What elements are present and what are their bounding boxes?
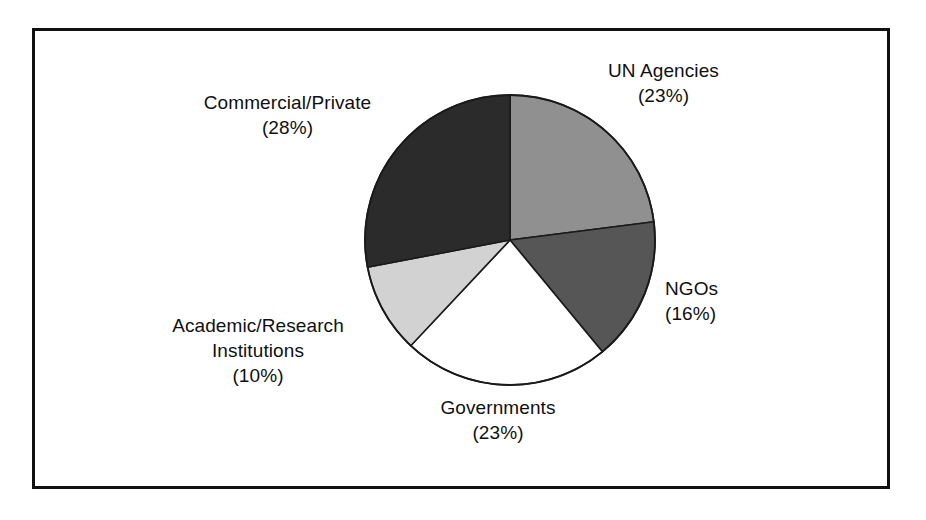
pie-label-academic-research: Academic/Research Institutions (10%) — [152, 313, 364, 388]
pie-label-governments-percent: (23%) — [418, 420, 578, 445]
pie-label-governments-name: Governments — [418, 395, 578, 420]
pie-slices — [365, 95, 655, 385]
pie-label-academic-research-line1: Academic/Research — [152, 313, 364, 338]
pie-label-commercial-private: Commercial/Private (28%) — [180, 90, 395, 140]
figure-container: UN Agencies (23%) NGOs (16%) Governments… — [0, 0, 926, 520]
pie-label-ngos-name: NGOs — [665, 276, 718, 301]
pie-chart: UN Agencies (23%) NGOs (16%) Governments… — [0, 0, 926, 520]
pie-label-academic-research-line2: Institutions — [152, 338, 364, 363]
pie-label-governments: Governments (23%) — [418, 395, 578, 445]
pie-label-commercial-private-name: Commercial/Private — [180, 90, 395, 115]
pie-label-un-agencies: UN Agencies (23%) — [608, 58, 719, 108]
pie-label-ngos-percent: (16%) — [665, 301, 718, 326]
pie-label-un-agencies-percent: (23%) — [608, 83, 719, 108]
pie-label-ngos: NGOs (16%) — [665, 276, 718, 326]
pie-slice-un-agencies[interactable] — [510, 95, 654, 240]
pie-label-un-agencies-name: UN Agencies — [608, 58, 719, 83]
pie-label-academic-research-percent: (10%) — [152, 363, 364, 388]
pie-label-commercial-private-percent: (28%) — [180, 115, 395, 140]
